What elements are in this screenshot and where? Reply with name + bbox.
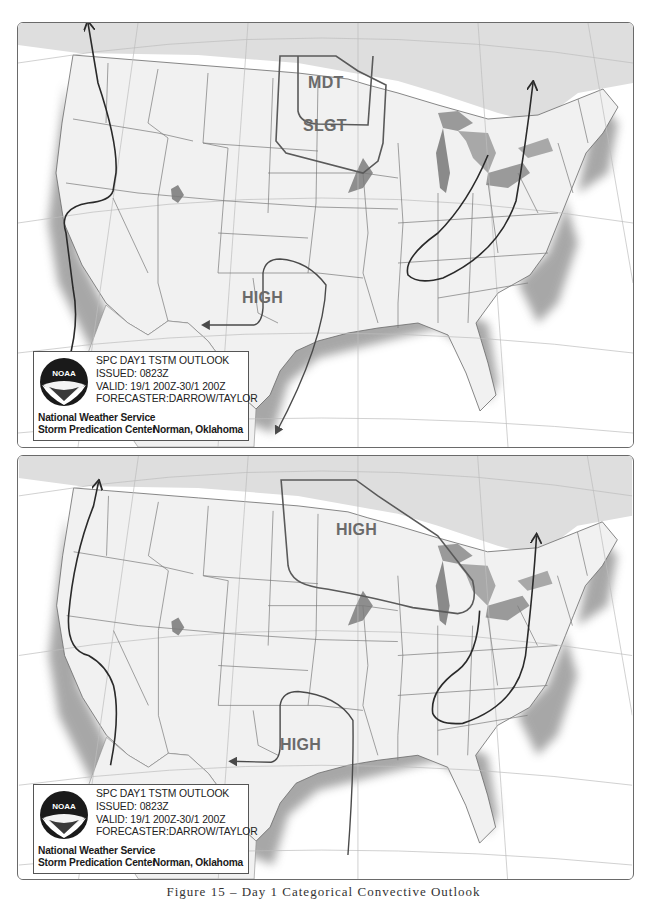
issued-time: ISSUED: 0823Z: [96, 801, 258, 814]
slgt-label: SLGT: [303, 117, 347, 135]
figure-caption: Figure 15 – Day 1 Categorical Convective…: [0, 884, 647, 900]
valid-period: VALID: 19/1 200Z-30/1 200Z: [96, 381, 258, 394]
organization: National Weather Service Storm Predicati…: [38, 412, 156, 436]
issued-time: ISSUED: 0823Z: [96, 368, 258, 381]
svg-text:NOAA: NOAA: [52, 369, 76, 378]
outlook-legend: NOAA SPC DAY1 TSTM OUTLOOK ISSUED: 0823Z…: [33, 784, 249, 874]
outlook-legend: NOAA SPC DAY1 TSTM OUTLOOK ISSUED: 0823Z…: [33, 351, 249, 441]
high-label-south: HIGH: [280, 736, 321, 754]
noaa-logo-icon: NOAA: [39, 357, 89, 407]
outlook-map-panel-bottom: HIGH HIGH NOAA SPC DAY1 TSTM OUTLOOK ISS…: [17, 455, 634, 880]
high-label-north: HIGH: [336, 521, 377, 539]
mdt-label: MDT: [308, 74, 344, 92]
org-line-1: National Weather Service: [38, 412, 156, 424]
svg-text:NOAA: NOAA: [52, 802, 76, 811]
organization: National Weather Service Storm Predicati…: [38, 845, 156, 869]
location: Norman, Oklahoma: [153, 857, 243, 869]
forecaster-names: FORECASTER:DARROW/TAYLOR: [96, 826, 258, 839]
legend-details: SPC DAY1 TSTM OUTLOOK ISSUED: 0823Z VALI…: [96, 788, 258, 839]
forecaster-names: FORECASTER:DARROW/TAYLOR: [96, 393, 258, 406]
legend-details: SPC DAY1 TSTM OUTLOOK ISSUED: 0823Z VALI…: [96, 355, 258, 406]
valid-period: VALID: 19/1 200Z-30/1 200Z: [96, 814, 258, 827]
outlook-map-panel-top: MDT SLGT HIGH NOAA SPC DAY1 TSTM OUTLOOK…: [17, 22, 634, 448]
high-label-south: HIGH: [242, 289, 283, 307]
outlook-title: SPC DAY1 TSTM OUTLOOK: [96, 355, 258, 368]
org-line-1: National Weather Service: [38, 845, 156, 857]
noaa-logo-icon: NOAA: [39, 790, 89, 840]
location: Norman, Oklahoma: [153, 424, 243, 436]
org-line-2: Storm Predication Center: [38, 857, 156, 869]
org-line-2: Storm Predication Center: [38, 424, 156, 436]
outlook-title: SPC DAY1 TSTM OUTLOOK: [96, 788, 258, 801]
